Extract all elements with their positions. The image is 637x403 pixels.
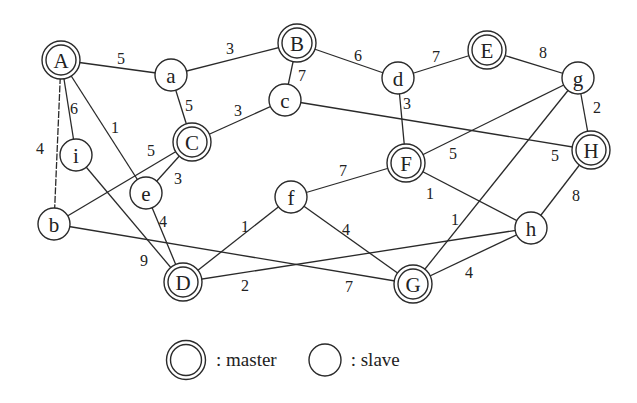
edge-A-b [54, 60, 61, 224]
node-label: f [288, 186, 295, 210]
node-label: e [141, 182, 150, 206]
master-node-D: D [164, 263, 202, 301]
master-node-icon [164, 338, 208, 382]
edge-weight-label: 3 [174, 170, 182, 187]
slave-node-a: a [155, 59, 187, 91]
node-label: H [583, 139, 598, 163]
slave-node-g: g [562, 62, 594, 94]
master-node-B: B [278, 24, 316, 62]
edge-weight-label: 6 [70, 100, 78, 117]
edge-weight-label: 5 [449, 145, 457, 162]
master-node-C: C [173, 123, 211, 161]
node-label: d [393, 67, 404, 91]
edge-F-h [406, 163, 531, 228]
edge-weight-label: 1 [111, 119, 119, 136]
slave-node-b: b [38, 208, 70, 240]
edge-weight-label: 2 [241, 277, 249, 294]
edge-weight-label: 5 [117, 50, 125, 67]
node-label: C [185, 131, 199, 155]
edge-g-G [413, 78, 578, 284]
edge-weight-label: 8 [572, 187, 580, 204]
edge-weight-label: 5 [185, 97, 193, 114]
edge-weight-label: 5 [147, 142, 155, 159]
edge-weight-label: 4 [36, 140, 44, 157]
edges-layer [54, 43, 591, 284]
edge-c-H [285, 100, 591, 150]
edge-weight-label: 7 [432, 48, 440, 65]
edge-A-e [61, 60, 146, 193]
master-node-A: A [42, 41, 80, 79]
edge-D-h [183, 228, 531, 282]
edge-weight-label: 1 [241, 218, 249, 235]
edge-weight-label: 8 [539, 44, 547, 61]
slave-node-i: i [60, 139, 92, 171]
node-label: G [405, 273, 420, 297]
node-label: g [573, 67, 584, 91]
legend-master-label: : master [216, 349, 277, 371]
edge-weight-label: 7 [339, 162, 347, 179]
slave-node-d: d [382, 62, 414, 94]
legend-slave-label: : slave [351, 349, 400, 371]
legend: : master : slave [164, 338, 400, 382]
node-label: c [280, 89, 289, 113]
node-label: b [49, 213, 60, 237]
node-label: B [290, 32, 304, 56]
edge-weight-label: 9 [140, 252, 148, 269]
slave-node-icon [307, 342, 343, 378]
node-label: i [73, 144, 79, 168]
node-label: E [481, 39, 494, 63]
slave-node-f: f [275, 181, 307, 213]
edge-weight-label: 7 [345, 278, 353, 295]
edge-weight-label: 1 [426, 185, 434, 202]
edge-f-D [183, 197, 291, 282]
master-node-E: E [468, 31, 506, 69]
edge-weight-label: 6 [354, 47, 362, 64]
edge-weight-label: 4 [465, 264, 473, 281]
master-node-H: H [572, 131, 610, 169]
edge-f-G [291, 197, 413, 284]
edge-weight-label: 7 [298, 67, 306, 84]
edge-weight-label: 3 [226, 40, 234, 57]
legend-item-master: : master [164, 338, 277, 382]
edge-weight-label: 1 [451, 211, 459, 228]
node-label: F [400, 152, 412, 176]
edge-weight-label: 2 [593, 99, 601, 116]
master-node-G: G [394, 265, 432, 303]
edge-weight-label: 3 [234, 102, 242, 119]
slave-node-h: h [515, 212, 547, 244]
slave-node-c: c [269, 84, 301, 116]
master-node-F: F [387, 144, 425, 182]
legend-item-slave: : slave [307, 342, 400, 378]
node-label: h [526, 217, 537, 241]
edge-weight-label: 3 [403, 95, 411, 112]
node-label: A [53, 49, 69, 73]
node-label: D [175, 271, 190, 295]
edge-b-G [54, 224, 413, 284]
edge-weight-label: 5 [551, 147, 559, 164]
slave-node-e: e [130, 177, 162, 209]
edge-weight-label: 4 [342, 221, 350, 238]
edge-weight-label: 4 [159, 213, 167, 230]
edge-weights-layer: 5367875361495345352171814274 [36, 40, 601, 295]
node-label: a [166, 64, 176, 88]
